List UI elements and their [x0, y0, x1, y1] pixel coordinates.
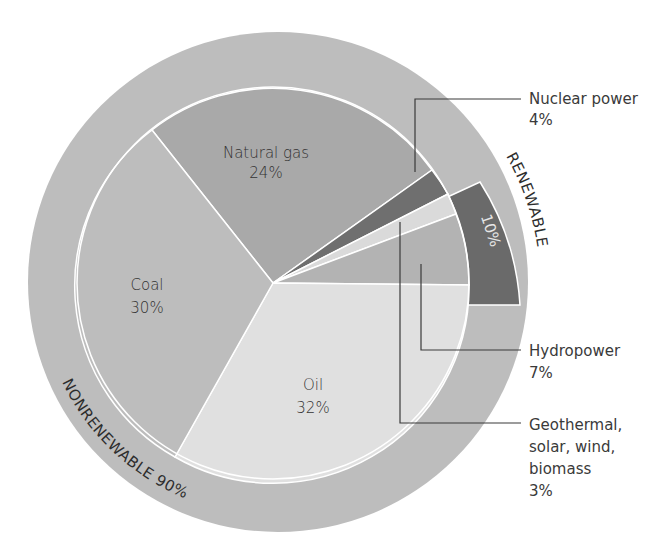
energy-sources-pie-chart: Natural gas 24% Coal 30% Oil 32% Nuclear…	[0, 0, 671, 559]
callout-nuclear-value: 4%	[529, 111, 553, 129]
callout-hydro-value: 7%	[529, 364, 553, 382]
label-natural-gas: Natural gas	[223, 144, 309, 162]
callout-hydro-name: Hydropower	[529, 342, 621, 360]
label-oil: Oil	[303, 376, 323, 394]
callout-geothermal-line2: solar, wind,	[529, 438, 615, 456]
value-oil: 32%	[296, 399, 329, 417]
callout-nuclear-name: Nuclear power	[529, 90, 639, 108]
value-coal: 30%	[130, 299, 163, 317]
callout-geothermal-line3: biomass	[529, 460, 591, 478]
callout-geothermal-value: 3%	[529, 482, 553, 500]
callout-geothermal-line1: Geothermal,	[529, 416, 622, 434]
label-coal: Coal	[130, 276, 163, 294]
value-natural-gas: 24%	[249, 164, 282, 182]
